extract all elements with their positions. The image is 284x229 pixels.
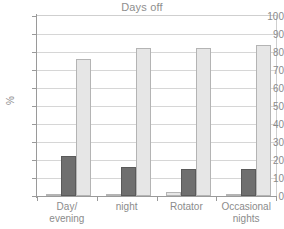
y-axis-tick-label: 50	[254, 101, 284, 112]
y-axis-tick-label: 10	[254, 173, 284, 184]
plot-area	[37, 16, 276, 196]
gridline	[37, 124, 276, 125]
x-axis-category-label-line1: Occasional	[216, 201, 276, 213]
chart-title: Days off	[0, 1, 284, 13]
y-axis-tick-mark	[32, 106, 36, 107]
x-axis-category-label: night	[97, 201, 157, 213]
y-axis-tick-label: 40	[254, 119, 284, 130]
x-axis-category-label-line1: night	[97, 201, 157, 213]
x-axis-category-label-line1: Rotator	[157, 201, 217, 213]
x-axis-tick-mark	[276, 196, 277, 201]
bar-series-3-cat0	[76, 59, 91, 196]
y-axis-tick-label: 80	[254, 47, 284, 58]
y-axis-tick-mark	[32, 142, 36, 143]
y-axis-tick-label: 60	[254, 83, 284, 94]
x-axis-category-label-line1: Day/	[37, 201, 97, 213]
y-axis-tick-mark	[32, 160, 36, 161]
gridline	[37, 88, 276, 89]
gridline	[37, 52, 276, 53]
y-axis-tick-mark	[32, 16, 36, 17]
y-axis-tick-label: 100	[254, 11, 284, 22]
x-axis-category-label: Day/evening	[37, 201, 97, 225]
bar-series-2-cat0	[61, 156, 76, 196]
y-axis-tick-mark	[32, 34, 36, 35]
bar-series-1-cat3	[226, 194, 241, 196]
y-axis-tick-mark	[32, 178, 36, 179]
y-axis-tick-label: 90	[254, 29, 284, 40]
y-axis-tick-mark	[32, 124, 36, 125]
bar-series-2-cat1	[121, 167, 136, 196]
x-axis-category-label-line2: nights	[216, 213, 276, 225]
bar-series-3-cat2	[196, 48, 211, 196]
y-axis-tick-mark	[32, 52, 36, 53]
bar-series-1-cat1	[106, 194, 121, 196]
y-axis-tick-mark	[32, 196, 36, 197]
bar-series-1-cat0	[46, 194, 61, 196]
y-axis-tick-label: 0	[254, 191, 284, 202]
gridline	[37, 70, 276, 71]
x-axis-category-label: Occasionalnights	[216, 201, 276, 225]
bar-series-3-cat1	[136, 48, 151, 196]
y-axis-tick-label: 20	[254, 155, 284, 166]
y-axis-label: %	[5, 90, 16, 112]
gridline	[37, 106, 276, 107]
x-axis-category-label: Rotator	[157, 201, 217, 213]
x-axis-category-label-line2: evening	[37, 213, 97, 225]
gridline	[37, 34, 276, 35]
y-axis-tick-label: 70	[254, 65, 284, 76]
y-axis-tick-label: 30	[254, 137, 284, 148]
y-axis-tick-mark	[32, 70, 36, 71]
bar-series-1-cat2	[166, 192, 181, 196]
chart-container: Days off % 1009080706050403020100 Day/ev…	[0, 0, 284, 229]
y-axis-tick-mark	[32, 88, 36, 89]
bar-series-2-cat2	[181, 169, 196, 196]
gridline	[37, 142, 276, 143]
